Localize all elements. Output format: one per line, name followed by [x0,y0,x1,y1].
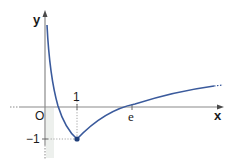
x-axis-label: x [214,108,222,123]
shaded-region [46,108,54,158]
curve-dotted-continuation [214,85,223,86]
tick-label-x-e: e [128,109,134,124]
y-axis-arrow-icon [43,10,48,17]
function-graph: y x O 1 e −1 [0,0,233,164]
y-axis-label: y [33,12,41,27]
minimum-point [74,136,79,141]
tick-label-y-minus1: −1 [26,132,40,146]
origin-label: O [35,109,44,123]
tick-label-x-1: 1 [73,90,80,104]
